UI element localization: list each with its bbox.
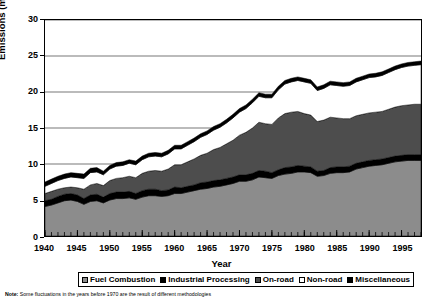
legend-swatch-icon (347, 277, 353, 283)
x-axis-tick-label: 1975 (262, 243, 282, 253)
x-axis-title-text: Year (211, 258, 231, 269)
legend-item[interactable]: Industrial Processing (160, 276, 249, 284)
x-axis-tick-label: 1970 (230, 243, 250, 253)
x-axis-tick-label: 1960 (164, 243, 184, 253)
legend-label: Fuel Combustion (90, 276, 155, 284)
stacked-area-svg (45, 20, 421, 236)
legend-swatch-icon (82, 277, 88, 283)
legend-item[interactable]: Non-road (299, 276, 343, 284)
legend-label: On-road (263, 276, 294, 284)
x-axis-tick-label: 1945 (67, 243, 87, 253)
chart-legend: Fuel CombustionIndustrial ProcessingOn-r… (78, 272, 414, 287)
emissions-stacked-area-figure: Emissions (million short tons) 051015202… (0, 0, 443, 306)
y-axis-title: Emissions (million short tons) (0, 0, 7, 60)
y-axis-tick-label: 10 (8, 160, 38, 169)
legend-label: Industrial Processing (168, 276, 249, 284)
y-axis-tick-label: 25 (8, 51, 38, 60)
legend-label: Non-road (307, 276, 343, 284)
y-axis-tick-label: 15 (8, 124, 38, 133)
x-axis-tick-label: 1955 (132, 243, 152, 253)
legend-item[interactable]: Fuel Combustion (82, 276, 155, 284)
legend-swatch-icon (255, 277, 261, 283)
x-axis-tick-label: 1940 (34, 243, 54, 253)
x-axis-tick-label: 1980 (295, 243, 315, 253)
x-axis-tick-labels: 1940194519501955196019651970197519801985… (44, 243, 422, 255)
legend-item[interactable]: On-road (255, 276, 294, 284)
x-axis-tick-label: 1950 (99, 243, 119, 253)
x-axis-tick-label: 1985 (327, 243, 347, 253)
y-axis-tick-label: 20 (8, 87, 38, 96)
legend-swatch-icon (160, 277, 166, 283)
note-prefix: Note: (5, 291, 18, 297)
y-axis-tick-label: 5 (8, 196, 38, 205)
x-axis-tick-label: 1990 (360, 243, 380, 253)
x-axis-tick-label: 1995 (392, 243, 412, 253)
x-axis-title: Year (0, 258, 443, 269)
y-axis-tick-label: 30 (8, 15, 38, 24)
y-axis-tick-mark (40, 237, 44, 238)
plot-area (44, 19, 422, 237)
legend-label: Miscellaneous (355, 276, 410, 284)
figure-note: Note: Some fluctuations in the years bef… (5, 291, 435, 298)
legend-swatch-icon (299, 277, 305, 283)
y-axis-title-text: Emissions (million short tons) (0, 0, 7, 60)
note-text: Some fluctuations in the years before 19… (20, 291, 211, 297)
y-axis-tick-label: 0 (8, 233, 38, 242)
x-axis-tick-label: 1965 (197, 243, 217, 253)
legend-item[interactable]: Miscellaneous (347, 276, 410, 284)
